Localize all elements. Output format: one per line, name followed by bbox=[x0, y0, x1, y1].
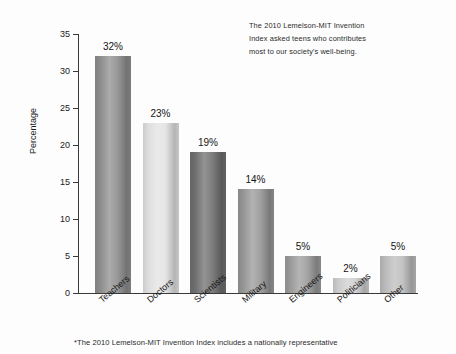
y-tick-label: 25 bbox=[60, 103, 70, 113]
y-tick-mark bbox=[73, 256, 78, 257]
bar-value-label: 23% bbox=[150, 108, 170, 119]
bar-value-label: 2% bbox=[343, 263, 357, 274]
bar-value-label: 5% bbox=[296, 241, 310, 252]
y-tick-mark bbox=[73, 108, 78, 109]
y-tick-label: 30 bbox=[60, 66, 70, 76]
y-tick-mark bbox=[73, 145, 78, 146]
bar-military[interactable]: 14% bbox=[238, 189, 274, 293]
bar-value-label: 14% bbox=[245, 174, 265, 185]
chart-footnote: *The 2010 Lemelson-MIT Invention Index i… bbox=[74, 338, 338, 347]
y-tick-mark bbox=[73, 182, 78, 183]
annotation-line-1: The 2010 Lemelson-MIT Invention bbox=[249, 19, 439, 32]
y-tick-label: 5 bbox=[65, 251, 70, 261]
y-tick-label: 15 bbox=[60, 177, 70, 187]
plot-area: 05101520253035 32%23%19%14%5%2%5% Teache… bbox=[78, 34, 418, 293]
bar-value-label: 5% bbox=[391, 241, 405, 252]
y-tick-label: 10 bbox=[60, 214, 70, 224]
y-tick-mark bbox=[73, 71, 78, 72]
bar-doctors[interactable]: 23% bbox=[143, 123, 179, 293]
y-axis-line bbox=[78, 34, 79, 293]
y-axis-title: Percentage bbox=[28, 140, 38, 154]
bar-value-label: 19% bbox=[198, 137, 218, 148]
y-tick-label: 20 bbox=[60, 140, 70, 150]
y-tick-label: 0 bbox=[65, 288, 70, 298]
bar-teachers[interactable]: 32% bbox=[95, 56, 131, 293]
bar-chart-figure: The 2010 Lemelson-MIT Invention Index as… bbox=[0, 0, 456, 354]
y-tick-label: 35 bbox=[60, 29, 70, 39]
y-tick-mark bbox=[73, 219, 78, 220]
bar-value-label: 32% bbox=[103, 41, 123, 52]
y-tick-mark bbox=[73, 293, 78, 294]
y-tick-mark bbox=[73, 34, 78, 35]
